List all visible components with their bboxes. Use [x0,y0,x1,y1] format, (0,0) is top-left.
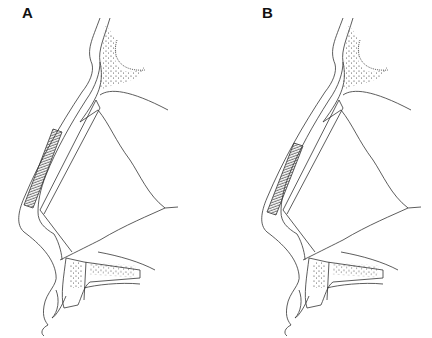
panel-a-drawing [19,18,178,336]
panel-b-drawing [262,18,421,336]
graft-b [267,143,303,215]
nasal-diagram [0,0,432,338]
graft-a [24,129,62,208]
